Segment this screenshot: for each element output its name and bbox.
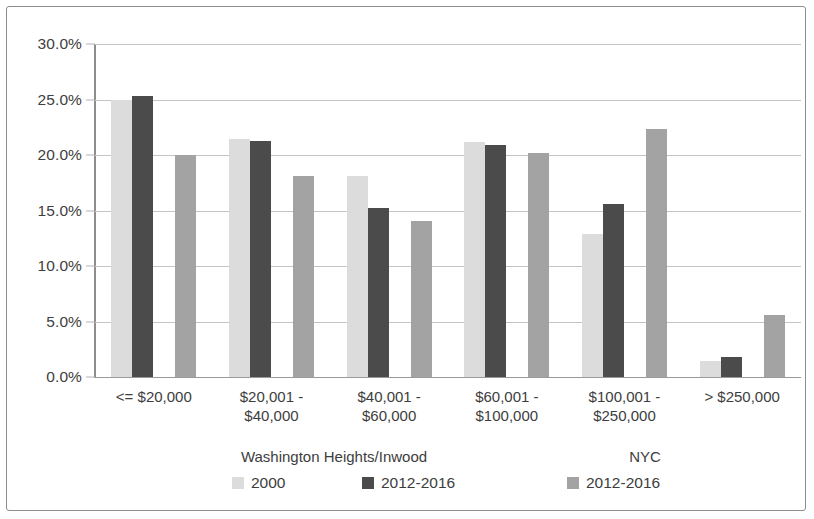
bar <box>229 139 250 377</box>
y-axis-tickmark <box>86 210 95 211</box>
category-axis-label: $60,001 - $100,000 <box>448 387 566 425</box>
bar <box>603 204 624 377</box>
legend-swatch-icon <box>232 477 244 489</box>
gridline <box>95 377 801 378</box>
bar <box>646 129 667 377</box>
legend-group-title: NYC <box>495 448 795 465</box>
legend-swatch-icon <box>362 477 374 489</box>
bar <box>132 96 153 377</box>
y-axis-tickmark <box>86 266 95 267</box>
category-axis-label: <= $20,000 <box>95 387 213 406</box>
y-axis-tickmark <box>86 377 95 378</box>
legend-entry[interactable]: 2012-2016 <box>362 474 455 492</box>
bar <box>347 176 368 377</box>
bar <box>111 100 132 378</box>
bar <box>582 234 603 377</box>
y-axis-tick-label: 0.0% <box>46 368 82 386</box>
category-axis-label: $20,001 - $40,000 <box>213 387 331 425</box>
chart-container: 0.0%5.0%10.0%15.0%20.0%25.0%30.0% <= $20… <box>6 6 806 511</box>
legend-label: 2012-2016 <box>586 474 660 492</box>
bar <box>700 361 721 377</box>
y-axis-tickmark <box>86 44 95 45</box>
legend-group-title: Washington Heights/Inwood <box>184 448 484 465</box>
y-axis-tickmark <box>86 99 95 100</box>
legend-entry[interactable]: 2012-2016 <box>567 474 660 492</box>
bar <box>368 208 389 377</box>
y-axis-tick-label: 30.0% <box>38 35 82 53</box>
y-axis-tickmark <box>86 321 95 322</box>
bar <box>721 357 742 377</box>
bar <box>250 141 271 377</box>
bar <box>175 155 196 377</box>
category-axis-label: > $250,000 <box>683 387 801 406</box>
bar <box>528 153 549 377</box>
bar-group <box>330 44 448 377</box>
legend-label: 2000 <box>251 474 285 492</box>
bar <box>464 142 485 377</box>
bar-group <box>213 44 331 377</box>
category-axis-label: $100,001 - $250,000 <box>566 387 684 425</box>
y-axis-tick-label: 20.0% <box>38 146 82 164</box>
y-axis-tick-label: 10.0% <box>38 257 82 275</box>
legend-label: 2012-2016 <box>381 474 455 492</box>
bar <box>411 221 432 378</box>
plot-area: 0.0%5.0%10.0%15.0%20.0%25.0%30.0% <= $20… <box>95 44 801 377</box>
legend-entry[interactable]: 2000 <box>232 474 285 492</box>
bar-group <box>95 44 213 377</box>
legend-swatch-icon <box>567 477 579 489</box>
y-axis-tick-label: 5.0% <box>46 313 82 331</box>
y-axis-tick-label: 25.0% <box>38 91 82 109</box>
bar-group <box>566 44 684 377</box>
bar-group <box>448 44 566 377</box>
chart-legend: Washington Heights/InwoodNYC20002012-201… <box>7 448 805 508</box>
category-axis-label: $40,001 - $60,000 <box>330 387 448 425</box>
bar-group <box>683 44 801 377</box>
bar <box>764 315 785 377</box>
bar <box>485 145 506 377</box>
bar <box>293 176 314 377</box>
y-axis-tickmark <box>86 155 95 156</box>
y-axis-tick-label: 15.0% <box>38 202 82 220</box>
